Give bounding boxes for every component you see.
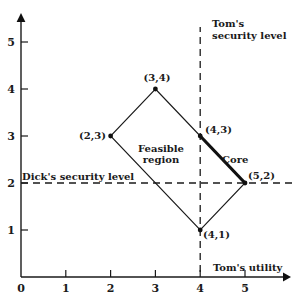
x-tick-label-3: 3 <box>152 282 160 295</box>
point-label-4-3: (4,3) <box>205 124 232 136</box>
feasible-region-label-line2: region <box>143 154 180 165</box>
point-label-5-2: (5,2) <box>248 170 275 182</box>
x-tick-label-0: 0 <box>17 282 25 295</box>
game-theory-core-figure: 0 1 2 3 4 5 1 2 3 4 5 (3,4) (2,3) (4,3) … <box>0 0 298 301</box>
dicks-security-level-label: Dick's security level <box>22 171 134 182</box>
vertex-dot-3-4 <box>153 87 158 92</box>
y-axis-arrowhead <box>17 13 26 22</box>
vertex-dot-4-3 <box>198 134 203 139</box>
y-tick-label-3: 3 <box>7 130 15 143</box>
x-axis-title: Tom's utility <box>213 262 284 273</box>
toms-security-level-label-line1: Tom's <box>212 18 245 29</box>
toms-security-level-label-line2: security level <box>212 30 287 41</box>
feasible-region-label-line1: Feasible <box>138 143 184 154</box>
vertex-dot-5-2 <box>243 181 248 186</box>
point-label-2-3: (2,3) <box>79 130 106 142</box>
y-tick-label-2: 2 <box>7 177 15 190</box>
y-axis-ticks <box>21 42 28 230</box>
core-label: Core <box>222 154 248 165</box>
y-tick-label-5: 5 <box>7 36 15 49</box>
vertex-dot-2-3 <box>108 134 113 139</box>
x-tick-label-1: 1 <box>62 282 70 295</box>
point-label-3-4: (3,4) <box>144 72 171 84</box>
x-tick-label-4: 4 <box>196 282 204 295</box>
x-tick-label-2: 2 <box>107 282 115 295</box>
x-tick-label-5: 5 <box>241 282 249 295</box>
point-label-4-1: (4,1) <box>203 229 230 241</box>
plot-canvas: 0 1 2 3 4 5 1 2 3 4 5 (3,4) (2,3) (4,3) … <box>0 0 298 301</box>
vertex-dot-4-1 <box>198 228 203 233</box>
y-tick-label-4: 4 <box>7 83 15 96</box>
x-axis-arrowhead <box>283 273 291 282</box>
y-tick-label-1: 1 <box>7 224 15 237</box>
